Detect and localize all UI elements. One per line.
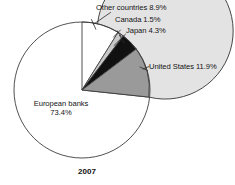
chart-caption-year: 2007	[62, 167, 112, 176]
pie-label-canada: Canada 1.5%	[115, 15, 160, 24]
pie-chart-svg	[0, 0, 235, 185]
pie-chart-figure: Other countries 8.9% Canada 1.5% Japan 4…	[0, 0, 235, 185]
pie-label-other-countries: Other countries 8.9%	[96, 3, 166, 12]
pie-label-european-banks-value: 73.4%	[24, 108, 98, 117]
pie-label-european-banks-name: European banks	[24, 99, 98, 108]
pie-label-european-banks: European banks 73.4%	[24, 99, 98, 117]
pie-label-united-states: United States 11.9%	[149, 62, 217, 71]
pie-label-japan: Japan 4.3%	[126, 26, 166, 35]
